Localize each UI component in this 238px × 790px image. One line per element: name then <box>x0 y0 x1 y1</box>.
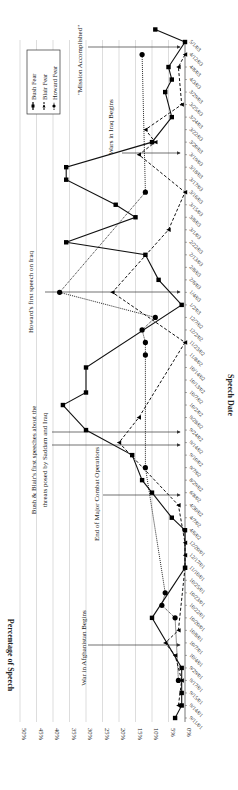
y-tick-label: 30% <box>87 728 94 741</box>
annotation-mission: "Mission Accomplished" <box>76 25 84 95</box>
data-series <box>57 27 187 720</box>
y-axis-ticks: 0%5%10%15%20%25%30%35%40%45%50% <box>21 728 193 741</box>
legend-bush-marker <box>32 105 35 108</box>
y-tick-label: 5% <box>170 728 177 737</box>
annotation-afghanistan: War in Afghanistan Begins <box>80 610 88 686</box>
x-axis-title: Speech Date <box>226 374 235 416</box>
y-tick-label: 0% <box>186 728 193 737</box>
legend: Bush Fear Blair Fear Howard Fear <box>27 50 60 114</box>
y-axis-title: Percentage of Speech <box>6 619 15 692</box>
x-tick-label: 5/1/03 <box>188 38 202 52</box>
y-tick-label: 10% <box>153 728 160 741</box>
y-tick-label: 20% <box>120 728 127 741</box>
legend-bush-label: Bush Fear <box>30 73 37 100</box>
annotation-first-speeches-1: Bush & Blair's first speeches about the <box>30 406 38 515</box>
y-tick-label: 35% <box>71 728 78 741</box>
annotation-first-speeches-2: threats posed by Saddam and Iraq <box>41 412 49 507</box>
y-tick-label: 45% <box>38 728 45 741</box>
x-tick-label: 2/6/03 <box>188 276 202 290</box>
x-tick-label: 1/2/03 <box>188 301 202 315</box>
legend-howard-label: Howard Fear <box>51 65 58 100</box>
x-tick-label: 1/4/03 <box>188 289 202 303</box>
x-axis-date-labels: 9/11/019/14/019/15/019/17/019/29/0110/4/… <box>188 38 206 730</box>
fear-speech-chart: 0%5%10%15%20%25%30%35%40%45%50% 9/11/019… <box>0 0 238 790</box>
annotation-end-combat: End of Major Combat Operations <box>93 447 101 541</box>
x-tick-label: 4/3/03 <box>188 76 202 90</box>
x-tick-label: 3/1/03 <box>188 226 202 240</box>
legend-howard-marker <box>52 104 55 107</box>
y-tick-label: 50% <box>21 728 28 741</box>
x-tick-label: 4/6/02 <box>188 527 202 541</box>
annotation-howard-first: Howard's first speech on Iraq <box>27 250 35 333</box>
annotation-iraq-begins: Wars in Iraq Begins <box>107 99 115 155</box>
y-tick-label: 25% <box>104 728 111 741</box>
legend-blair-label: Blair Fear <box>41 73 48 100</box>
gridlines <box>20 40 187 722</box>
y-tick-label: 15% <box>137 728 144 741</box>
y-tick-label: 40% <box>54 728 61 741</box>
